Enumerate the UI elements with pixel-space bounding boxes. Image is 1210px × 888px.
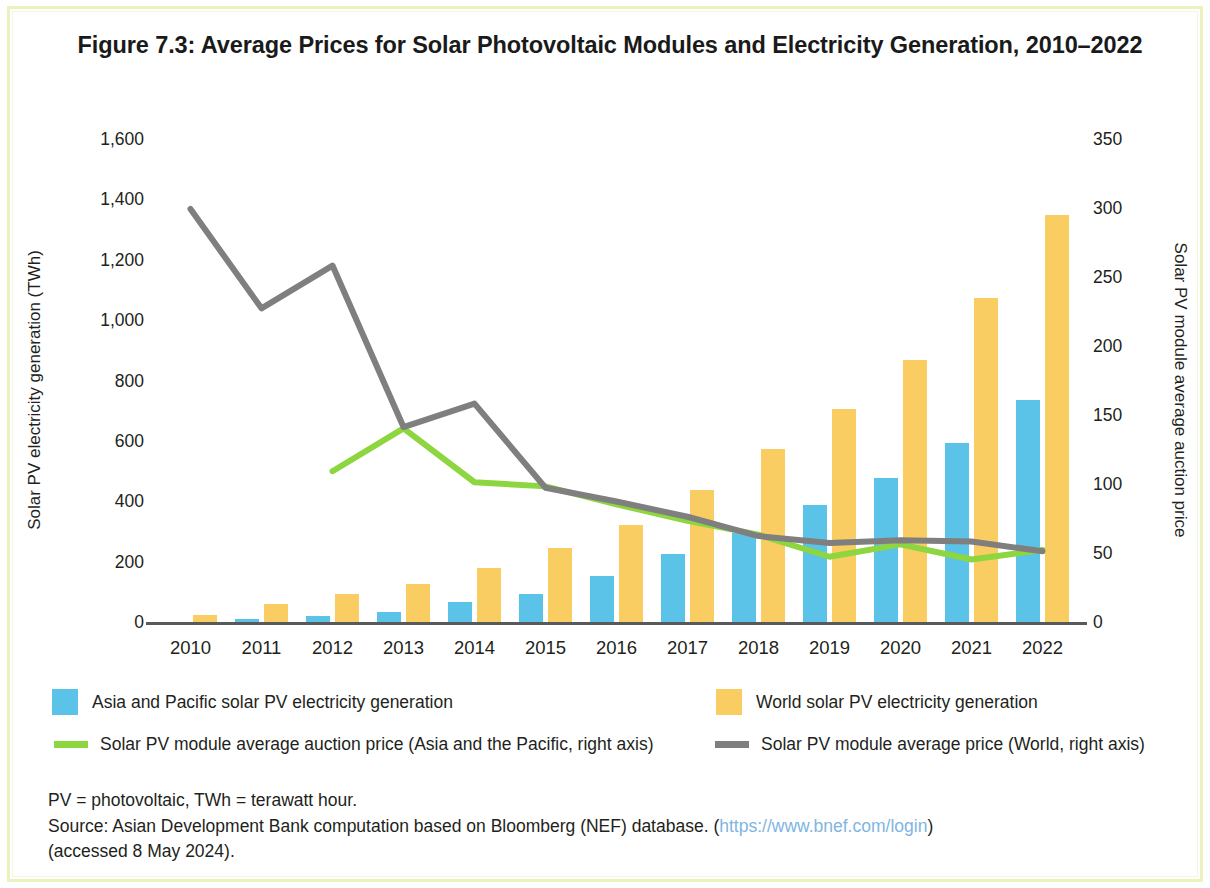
y-axis-right-tick: 150	[1093, 407, 1163, 425]
y-axis-right-tick: 250	[1093, 269, 1163, 287]
x-axis-tick-2021: 2021	[936, 637, 1007, 659]
y-axis-left-tick: 1,600	[74, 131, 144, 149]
legend-item-1[interactable]: World solar PV electricity generation	[716, 689, 1038, 715]
source-url-link[interactable]: https://www.bnef.com/login	[719, 816, 927, 836]
x-axis-line	[146, 622, 1087, 625]
y-axis-right-tick: 350	[1093, 131, 1163, 149]
y-axis-right-tick: 50	[1093, 545, 1163, 563]
x-axis-tick-2016: 2016	[581, 637, 652, 659]
legend-label: Solar PV module average price (World, ri…	[761, 734, 1145, 755]
x-axis-tick-2010: 2010	[155, 637, 226, 659]
legend-swatch-line-icon	[715, 741, 749, 748]
x-axis-ticks: 2010201120122013201420152016201720182019…	[155, 637, 1078, 667]
legend-item-3[interactable]: Solar PV module average price (World, ri…	[715, 734, 1145, 755]
y-axis-left-title: Solar PV electricity generation (TWh)	[25, 220, 45, 560]
y-axis-left-tick: 1,400	[74, 191, 144, 209]
footnote-accessed: (accessed 8 May 2024).	[48, 839, 1178, 865]
x-axis-tick-2019: 2019	[794, 637, 865, 659]
x-axis-tick-2022: 2022	[1007, 637, 1078, 659]
legend-label: World solar PV electricity generation	[756, 692, 1038, 713]
chart-legend: Asia and Pacific solar PV electricity ge…	[52, 686, 1192, 766]
y-axis-right-tick: 100	[1093, 476, 1163, 494]
footnote-abbreviations: PV = photovoltaic, TWh = terawatt hour.	[48, 788, 1178, 814]
x-axis-tick-2014: 2014	[439, 637, 510, 659]
y-axis-right-title: Solar PV module average auction price	[1170, 220, 1190, 560]
x-axis-tick-2018: 2018	[723, 637, 794, 659]
legend-label: Asia and Pacific solar PV electricity ge…	[92, 692, 453, 713]
y-axis-right-tick: 200	[1093, 338, 1163, 356]
footnote-source-suffix: )	[927, 816, 933, 836]
legend-item-2[interactable]: Solar PV module average auction price (A…	[54, 734, 653, 755]
y-axis-left-tick: 800	[74, 373, 144, 391]
x-axis-tick-2012: 2012	[297, 637, 368, 659]
y-axis-left-tick: 0	[74, 614, 144, 632]
x-axis-tick-2013: 2013	[368, 637, 439, 659]
x-axis-tick-2017: 2017	[652, 637, 723, 659]
figure-page: Figure 7.3: Average Prices for Solar Pho…	[0, 0, 1210, 888]
legend-label: Solar PV module average auction price (A…	[100, 734, 653, 755]
figure-footnotes: PV = photovoltaic, TWh = terawatt hour. …	[48, 788, 1178, 865]
x-axis-tick-2015: 2015	[510, 637, 581, 659]
y-axis-right-tick: 300	[1093, 200, 1163, 218]
y-axis-left-tick: 200	[74, 554, 144, 572]
footnote-source-text: Source: Asian Development Bank computati…	[48, 816, 719, 836]
y-axis-left-tick: 600	[74, 433, 144, 451]
y-axis-left-tick: 1,000	[74, 312, 144, 330]
line-module-price-world	[191, 209, 1043, 551]
footnote-source: Source: Asian Development Bank computati…	[48, 814, 1178, 840]
legend-swatch-square-icon	[52, 689, 78, 715]
y-axis-left-tick: 400	[74, 493, 144, 511]
legend-swatch-line-icon	[54, 741, 88, 748]
x-axis-tick-2020: 2020	[865, 637, 936, 659]
legend-swatch-square-icon	[716, 689, 742, 715]
plot-lines	[155, 140, 1078, 623]
legend-item-0[interactable]: Asia and Pacific solar PV electricity ge…	[52, 689, 453, 715]
y-axis-right-tick: 0	[1093, 614, 1163, 632]
y-axis-left-tick: 1,200	[74, 252, 144, 270]
x-axis-tick-2011: 2011	[226, 637, 297, 659]
